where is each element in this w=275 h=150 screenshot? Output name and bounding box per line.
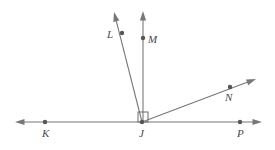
point-label-J: J (139, 128, 144, 139)
point-label-K: K (42, 128, 49, 139)
point-dot-L (120, 31, 124, 35)
point-label-L: L (107, 29, 113, 40)
rays-and-lines-group (15, 11, 262, 125)
point-dot-M (141, 36, 145, 40)
line-KP-arrowhead-start (15, 119, 25, 125)
geometry-figure: KJPLMN (0, 0, 275, 150)
point-dot-K (43, 120, 47, 124)
ray-JN-arrowhead-end (246, 79, 256, 85)
point-label-N: N (225, 92, 232, 103)
line-KP-arrowhead-end (253, 119, 263, 125)
point-dot-J (140, 120, 144, 124)
point-dot-P (238, 120, 242, 124)
ray-JN (142, 81, 251, 122)
ray-JL-arrowhead-end (113, 12, 119, 22)
ray-JM-arrowhead-end (140, 11, 146, 21)
point-label-P: P (237, 128, 244, 139)
point-dot-N (228, 85, 232, 89)
ray-JL (115, 17, 142, 122)
point-label-M: M (148, 34, 157, 45)
